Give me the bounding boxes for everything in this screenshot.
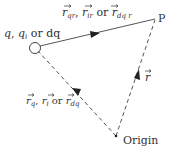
source-charge-label: q, qi or dq <box>4 28 60 41</box>
vector-diagram: q, qi or dq rqr, rir or rdq r P rq, ri o… <box>0 0 174 166</box>
charge-circle-icon <box>30 43 41 54</box>
origin-dot-icon <box>115 135 118 138</box>
separation-vector-label: rqr, rir or rdq r <box>62 7 132 20</box>
source-position-label: rq, ri or rdq <box>26 96 80 108</box>
origin-label: Origin <box>123 135 158 146</box>
field-position-arrowhead-icon <box>134 69 140 80</box>
field-position-label: r <box>145 72 150 83</box>
point-p-label: P <box>158 13 165 24</box>
